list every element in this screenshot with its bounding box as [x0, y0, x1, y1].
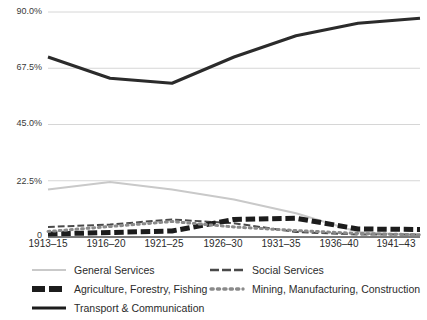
series-line-transport-communication: [48, 18, 420, 83]
series-lines: [48, 18, 420, 235]
legend-item-transport[interactable]: Transport & Communication: [31, 302, 204, 314]
plot-area: [0, 0, 427, 258]
x-axis-tick-2: 1921–25: [130, 238, 198, 249]
legend-label-mining: Mining, Manufacturing, Construction: [252, 283, 420, 295]
legend-label-social-services: Social Services: [252, 264, 324, 276]
x-axis-tick-6: 1941–43: [362, 238, 427, 249]
legend-swatch-agriculture: [31, 283, 67, 295]
legend-swatch-transport: [31, 302, 67, 314]
line-chart: 90.0% 67.5% 45.0% 22.5% 0 1913–15 1916–2…: [0, 0, 427, 320]
legend: General Services Social Services Agricul…: [0, 261, 427, 320]
legend-label-agriculture: Agriculture, Forestry, Fishing: [74, 283, 207, 295]
legend-swatch-general-services: [31, 264, 67, 276]
legend-label-general-services: General Services: [74, 264, 155, 276]
gridlines: [48, 12, 420, 237]
legend-item-general-services[interactable]: General Services: [31, 264, 155, 276]
legend-item-mining[interactable]: Mining, Manufacturing, Construction: [209, 283, 420, 295]
legend-label-transport: Transport & Communication: [74, 302, 204, 314]
legend-item-agriculture[interactable]: Agriculture, Forestry, Fishing: [31, 283, 207, 295]
legend-swatch-social-services: [209, 264, 245, 276]
legend-item-social-services[interactable]: Social Services: [209, 264, 324, 276]
legend-swatch-mining: [209, 283, 245, 295]
